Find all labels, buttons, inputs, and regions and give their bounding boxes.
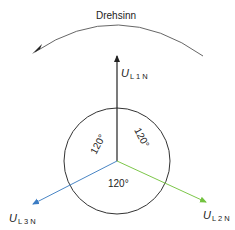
phasor-l3-arrow xyxy=(33,161,117,204)
angle-label-right: 120° xyxy=(132,126,151,149)
rotation-arc xyxy=(35,25,203,56)
phasor-l1-label: U L 1 N xyxy=(121,67,148,81)
svg-text:U: U xyxy=(9,212,17,224)
angle-label-left: 120° xyxy=(88,133,107,156)
svg-text:L 2 N: L 2 N xyxy=(212,214,230,223)
rotation-label: Drehsinn xyxy=(96,10,136,21)
phasor-l2-label: U L 2 N xyxy=(203,209,230,223)
phasor-l2-arrow xyxy=(117,161,206,202)
svg-text:L 3 N: L 3 N xyxy=(18,217,36,226)
svg-text:U: U xyxy=(121,67,129,79)
svg-text:U: U xyxy=(203,209,211,221)
angle-label-bottom: 120° xyxy=(108,178,129,189)
phasor-diagram: Drehsinn U L 1 N U L 3 N U L 2 N 120° 12… xyxy=(0,0,235,230)
svg-text:L 1 N: L 1 N xyxy=(130,72,148,81)
phasor-l3-label: U L 3 N xyxy=(9,212,36,226)
rotation-arrowhead-icon xyxy=(32,44,42,54)
